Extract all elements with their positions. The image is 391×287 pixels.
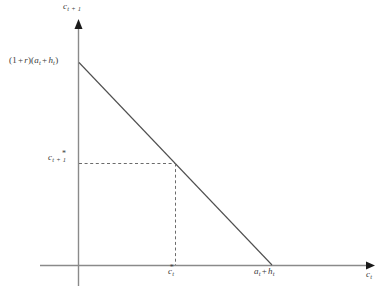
plot-canvas xyxy=(0,0,391,287)
budget-constraint-figure: ct + 1 (1+r)(at+ht) ct + 1* ct* at+ht ct xyxy=(0,0,391,287)
y-axis-title: ct + 1 xyxy=(63,2,81,11)
x-intercept-human-capital-subscript: t xyxy=(273,270,275,277)
y-intercept-assets-subscript: t xyxy=(39,59,41,66)
y-intercept-human-capital-subscript: t xyxy=(53,59,55,66)
x-intercept-plus: + xyxy=(261,266,268,276)
y-optimum-star: * xyxy=(62,149,66,158)
x-intercept-assets-symbol: a xyxy=(254,266,259,276)
x-intercept-assets-subscript: t xyxy=(259,270,261,277)
x-optimum-star: * xyxy=(170,263,174,272)
y-axis-arrowhead xyxy=(75,19,83,29)
x-axis-title-subscript: t xyxy=(370,273,372,280)
y-intercept-close-paren-2: ) xyxy=(55,55,58,65)
y-optimum-label: ct + 1* xyxy=(48,153,67,162)
x-axis-title: ct xyxy=(366,270,372,279)
x-intercept-label: at+ht xyxy=(254,267,275,276)
y-axis-title-subscript: t + 1 xyxy=(67,5,81,12)
y-intercept-label: (1+r)(at+ht) xyxy=(9,56,58,65)
x-optimum-label: ct* xyxy=(168,267,175,276)
